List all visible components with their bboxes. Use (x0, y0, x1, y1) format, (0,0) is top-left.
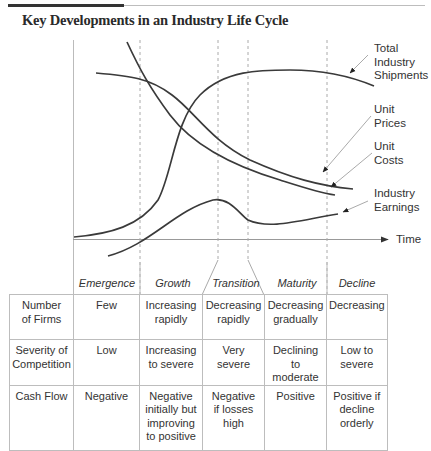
callout-unit-prices (323, 116, 371, 172)
label-total-industry-shipments: Total Industry Shipments (374, 42, 431, 83)
phase-decline: Decline (327, 277, 387, 289)
table-row: Severity ofCompetition Low Increasingto … (10, 340, 388, 386)
table-cell: Positive (265, 385, 327, 450)
life-cycle-chart (0, 0, 431, 300)
table-row: Cash Flow Negative Negativeinitially but… (10, 385, 388, 450)
curve-unit-prices (127, 42, 335, 195)
phase-maturity: Maturity (266, 277, 328, 289)
table-cell: Decreasingrapidly (203, 295, 265, 340)
table-cell: Negative (74, 385, 140, 450)
table-cell: Low (74, 340, 140, 386)
table-cell: Decreasinggradually (265, 295, 327, 340)
row-label: Severity ofCompetition (10, 340, 74, 386)
callout-shipments (350, 55, 368, 73)
table-cell: Negativeinitially butimprovingto positiv… (140, 385, 203, 450)
label-unit-costs: Unit Costs (374, 140, 414, 167)
curve-industry-earnings (108, 200, 338, 256)
row-label: Cash Flow (10, 385, 74, 450)
table-cell: Few (74, 295, 140, 340)
phase-growth: Growth (140, 277, 206, 289)
phase-transition: Transition (206, 277, 266, 289)
table-cell: Decreasing (327, 295, 388, 340)
x-axis-label-time: Time (396, 233, 421, 247)
row-label: Numberof Firms (10, 295, 74, 340)
life-cycle-table: Numberof Firms Few Increasingrapidly Dec… (9, 294, 388, 451)
callout-unit-costs (331, 153, 372, 187)
table-cell: Increasingrapidly (140, 295, 203, 340)
curve-unit-costs (96, 73, 353, 189)
table-cell: Positive ifdeclineorderly (327, 385, 388, 450)
phase-dividers (140, 40, 327, 294)
label-industry-earnings: Industry Earnings (374, 187, 431, 214)
table-cell: Very severe (203, 340, 265, 386)
table-cell: Increasingto severe (140, 340, 203, 386)
table-row: Numberof Firms Few Increasingrapidly Dec… (10, 295, 388, 340)
table-cell: Negativeif losseshigh (203, 385, 265, 450)
table-cell: Declining tomoderate (265, 340, 327, 386)
label-unit-prices: Unit Prices (374, 103, 414, 130)
phase-emergence: Emergence (74, 277, 140, 289)
curve-total-industry-shipments (74, 70, 374, 237)
callout-industry-earnings (343, 201, 368, 212)
table-cell: Low tosevere (327, 340, 388, 386)
